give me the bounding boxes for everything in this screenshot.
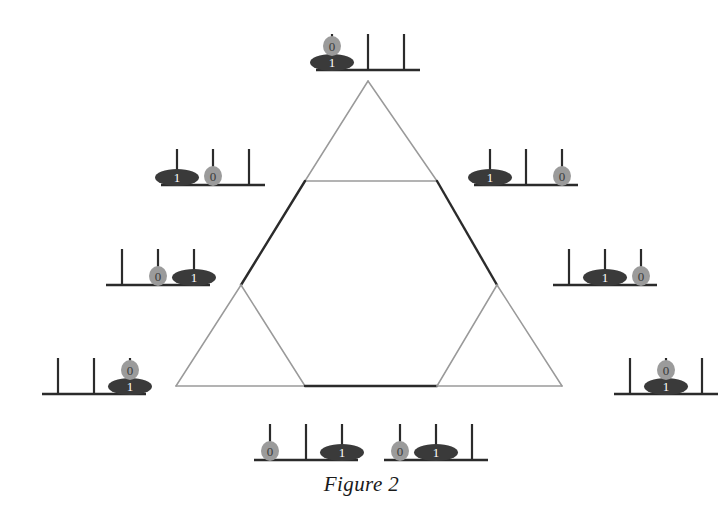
disk-label: 0	[559, 169, 566, 184]
state-bottom-left: 01	[248, 418, 364, 470]
graph-edge-layer	[176, 81, 562, 386]
hanoi-state-diagram: 01	[248, 418, 364, 470]
disk-label: 1	[487, 170, 494, 185]
disk-small: 0	[323, 36, 341, 56]
disk-label: 1	[602, 270, 609, 285]
disk-label: 0	[267, 444, 274, 459]
disk-large: 1	[320, 444, 364, 461]
figure-container: 101010011010100101 Figure 2	[0, 0, 723, 519]
graph-edge	[437, 181, 497, 285]
disk-small: 0	[391, 441, 409, 461]
state-low-right: 10	[608, 352, 723, 404]
graph-edge	[437, 285, 497, 386]
disk-label: 0	[663, 363, 670, 378]
disk-small: 0	[149, 266, 167, 286]
disk-small: 0	[261, 441, 279, 461]
disk-small: 0	[657, 360, 675, 380]
disk-label: 0	[127, 363, 134, 378]
graph-edge	[241, 285, 305, 386]
hanoi-state-diagram: 01	[100, 243, 216, 295]
disk-small: 0	[553, 166, 571, 186]
disk-label: 0	[210, 169, 217, 184]
disk-label: 1	[191, 270, 198, 285]
hanoi-state-diagram: 10	[155, 143, 271, 195]
graph-edge	[497, 285, 562, 386]
disk-large: 1	[468, 169, 512, 186]
disk-label: 1	[174, 170, 181, 185]
figure-caption: Figure 2	[0, 472, 723, 497]
disk-label: 1	[127, 379, 134, 394]
disk-label: 0	[638, 269, 645, 284]
disk-large: 1	[155, 169, 199, 186]
disk-large: 1	[644, 378, 688, 395]
graph-edge	[241, 181, 305, 285]
state-bottom-right: 01	[378, 418, 494, 470]
disk-label: 1	[339, 445, 346, 460]
disk-large: 1	[172, 269, 216, 286]
disk-label: 1	[433, 445, 440, 460]
disk-label: 1	[663, 379, 670, 394]
disk-large: 1	[310, 54, 354, 71]
state-mid-left: 01	[100, 243, 216, 295]
disk-small: 0	[204, 166, 222, 186]
graph-edge	[305, 81, 368, 181]
disk-label: 0	[397, 444, 404, 459]
state-low-left: 10	[36, 352, 152, 404]
disk-small: 0	[121, 360, 139, 380]
hanoi-state-diagram: 10	[36, 352, 152, 404]
graph-edge	[368, 81, 437, 181]
disk-large: 1	[108, 378, 152, 395]
disk-label: 0	[329, 39, 336, 54]
hanoi-state-diagram: 10	[547, 243, 663, 295]
hanoi-state-diagram: 10	[310, 28, 426, 80]
disk-large: 1	[583, 269, 627, 286]
hanoi-state-diagram: 10	[468, 143, 584, 195]
state-upper-left: 10	[155, 143, 271, 195]
disk-label: 1	[329, 55, 336, 70]
disk-large: 1	[414, 444, 458, 461]
disk-small: 0	[632, 266, 650, 286]
graph-edge	[176, 285, 241, 386]
hanoi-state-diagram: 01	[378, 418, 494, 470]
state-top: 10	[310, 28, 426, 80]
disk-label: 0	[155, 269, 162, 284]
hanoi-state-diagram: 10	[608, 352, 723, 404]
state-upper-right: 10	[468, 143, 584, 195]
state-mid-right: 10	[547, 243, 663, 295]
